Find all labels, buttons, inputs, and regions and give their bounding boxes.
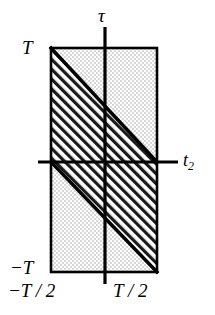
horizontal-axis-label: t2 (183, 151, 194, 173)
y-tick-label-top: T (22, 38, 33, 57)
x-tick-label-left: −T / 2 (8, 281, 55, 300)
figure-container: τ t2 T −T −T / 2 T / 2 (0, 0, 215, 315)
y-tick-label-bottom: −T (10, 258, 33, 277)
vertical-axis-label: τ (98, 6, 105, 25)
x-tick-label-right: T / 2 (113, 281, 148, 300)
horizontal-axis-label-subscript: 2 (188, 159, 194, 173)
